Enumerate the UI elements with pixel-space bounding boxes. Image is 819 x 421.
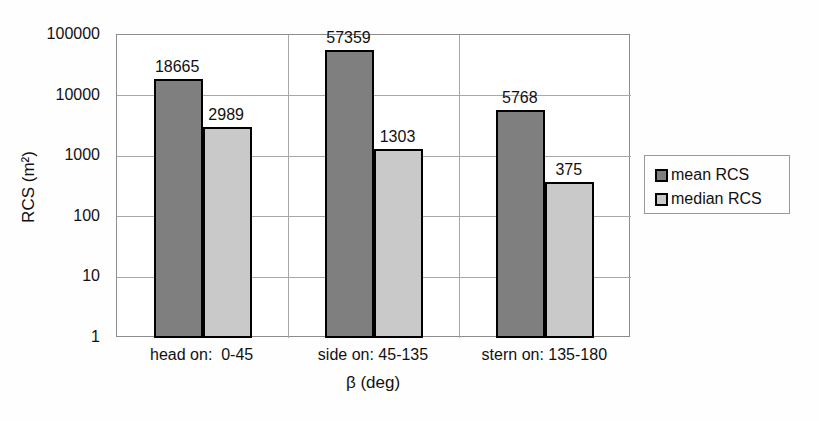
legend-marker-icon — [655, 169, 668, 182]
category-divider — [459, 35, 460, 338]
bar-mean-rcs-2 — [496, 110, 545, 338]
y-tick-label: 1 — [0, 328, 100, 346]
y-axis-title: RCS (m²) — [19, 122, 39, 252]
bar-median-rcs-2 — [545, 182, 594, 338]
chart: RCS (m²) 110100100010000100000186652989h… — [0, 0, 819, 421]
legend: mean RCSmedian RCS — [644, 155, 790, 214]
y-tick-label: 10 — [0, 267, 100, 285]
category-label-1: side on: 45-135 — [273, 346, 473, 364]
legend-label: mean RCS — [671, 166, 749, 184]
bar-value-label: 375 — [519, 161, 619, 179]
bar-median-rcs-1 — [374, 149, 423, 338]
category-label-0: head on: 0-45 — [102, 346, 302, 364]
legend-item-mean-rcs: mean RCS — [655, 163, 781, 187]
category-label-2: stern on: 135-180 — [444, 346, 644, 364]
bar-value-label: 5768 — [470, 89, 570, 107]
legend-item-median-rcs: median RCS — [655, 187, 781, 211]
y-tick-label: 10000 — [0, 86, 100, 104]
plot-area — [116, 34, 630, 337]
legend-marker-icon — [655, 193, 668, 206]
x-axis-title: β (deg) — [273, 373, 473, 393]
category-divider — [288, 35, 289, 338]
bar-median-rcs-0 — [203, 127, 252, 338]
y-tick-label: 1000 — [0, 146, 100, 164]
bar-value-label: 18665 — [127, 58, 227, 76]
y-tick-label: 100000 — [0, 25, 100, 43]
bar-value-label: 57359 — [299, 29, 399, 47]
bar-value-label: 1303 — [348, 128, 448, 146]
y-tick-label: 100 — [0, 207, 100, 225]
legend-label: median RCS — [671, 190, 762, 208]
bar-mean-rcs-1 — [325, 50, 374, 338]
bar-value-label: 2989 — [176, 106, 276, 124]
